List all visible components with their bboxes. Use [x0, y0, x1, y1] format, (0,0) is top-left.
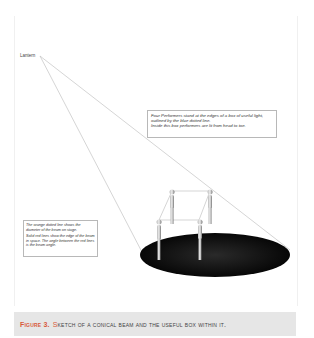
- useful-light-box: [159, 191, 210, 220]
- caption-rest: ketch of a conical beam and the useful b…: [58, 321, 227, 328]
- legend-red-lines: Solid red lines show the edge of the bea…: [26, 234, 95, 248]
- stage-light-pool: [140, 233, 290, 277]
- legend-orange-line: The orange dotted line shows the diamete…: [26, 223, 95, 232]
- beam-legend: The orange dotted line shows the diamete…: [23, 220, 98, 257]
- figure-number: Figure 3.: [20, 321, 50, 328]
- note-line: Inside this box performers are lit from …: [151, 123, 273, 128]
- lantern-label: Lantern: [20, 53, 35, 58]
- figure-caption: Figure 3. Sketch of a conical beam and t…: [14, 312, 296, 336]
- beam-diagram: [0, 0, 314, 338]
- performer-note: Four Performers stand at the edges of a …: [147, 110, 277, 138]
- caption-text: Sketch of a conical beam and the useful …: [53, 321, 227, 328]
- performer-back-right: [208, 190, 213, 225]
